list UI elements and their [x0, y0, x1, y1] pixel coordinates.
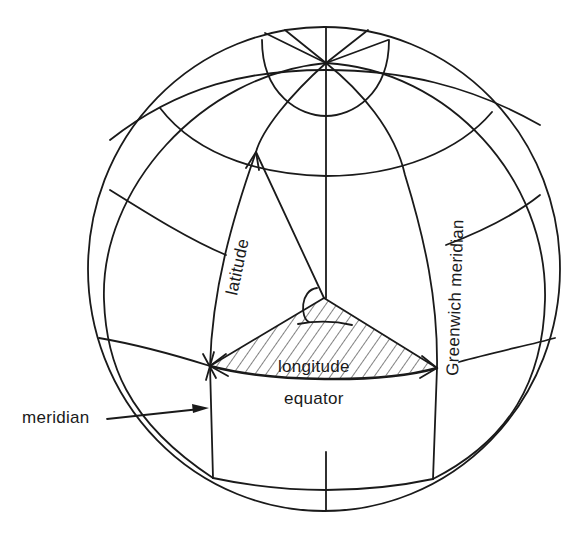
globe-diagram: latitude longitude equator Greenwich mer…	[0, 0, 587, 533]
meridian-label: meridian	[22, 408, 90, 427]
parallel-left-equator	[99, 338, 210, 366]
pole-ray-3	[326, 30, 368, 63]
parallel-bottom	[213, 478, 433, 490]
meridian-pointer-line	[107, 409, 200, 419]
pole-ray-4	[326, 40, 388, 63]
meridian-pointer-arrowhead	[192, 404, 209, 413]
greenwich-meridian-label: Greenwich meridian	[443, 219, 467, 376]
parallel-right-equator	[459, 338, 555, 362]
equator-label: equator	[284, 389, 344, 408]
greenwich-meridian-line	[326, 63, 437, 479]
longitude-label: longitude	[278, 357, 350, 376]
